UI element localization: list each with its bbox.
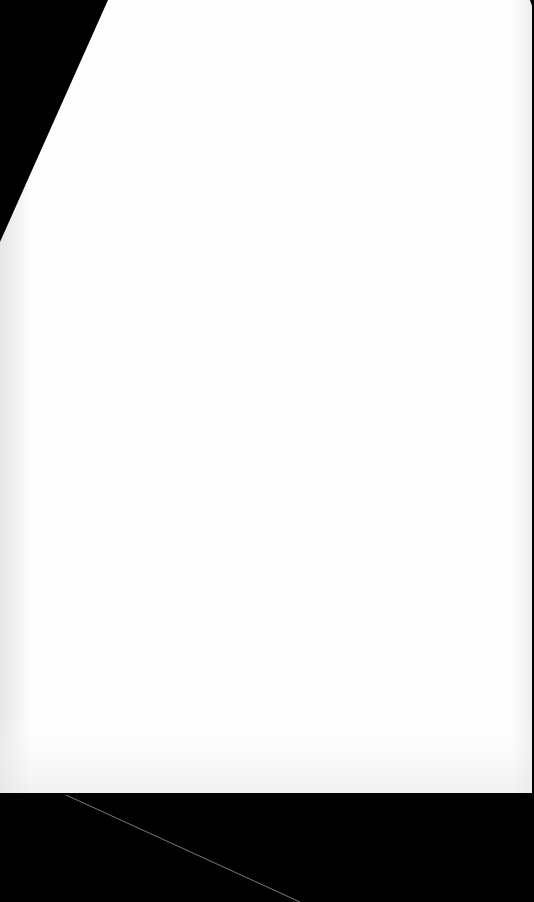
paper-illustration [0, 0, 534, 902]
photo-scene [0, 0, 534, 902]
paper-bottom-shading [0, 0, 532, 793]
